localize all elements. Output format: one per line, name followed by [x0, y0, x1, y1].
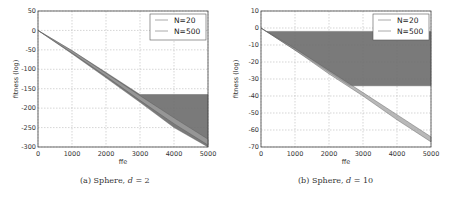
- x-tick-label: 1000: [64, 150, 81, 158]
- y-tick-label: -150: [21, 85, 36, 93]
- y-tick-label: -250: [21, 124, 36, 132]
- caption-b: (b) Sphere, d = 10: [298, 176, 373, 185]
- x-tick-label: 1000: [287, 150, 304, 158]
- y-tick-label: 10: [251, 7, 259, 15]
- y-tick-label: -70: [248, 143, 259, 151]
- y-tick-label: -200: [21, 104, 36, 112]
- y-axis-label: fitness (log): [12, 60, 20, 99]
- y-tick-label: 0: [32, 27, 36, 35]
- y-tick-label: 0: [255, 24, 259, 32]
- x-tick-label: 4000: [389, 150, 406, 158]
- y-tick-label: 50: [28, 7, 36, 15]
- chart-panel-b: 010002000300040005000100-10-20-30-40-50-…: [226, 0, 453, 197]
- y-tick-label: -50: [25, 46, 36, 54]
- x-axis-label: ffe: [342, 158, 350, 166]
- chart-b: 010002000300040005000100-10-20-30-40-50-…: [226, 0, 453, 170]
- legend-entry: N=500: [174, 27, 200, 36]
- y-axis-label: fitness (log): [232, 60, 240, 99]
- y-tick-label: -40: [248, 92, 259, 100]
- x-tick-label: 5000: [423, 150, 440, 158]
- y-tick-label: -300: [21, 143, 36, 151]
- x-tick-label: 3000: [355, 150, 372, 158]
- x-tick-label: 2000: [321, 150, 338, 158]
- x-axis-label: ffe: [119, 158, 127, 166]
- x-tick-label: 2000: [98, 150, 115, 158]
- x-tick-label: 4000: [166, 150, 183, 158]
- legend-entry: N=20: [174, 16, 196, 25]
- y-tick-label: -60: [248, 126, 259, 134]
- y-tick-label: -100: [21, 65, 36, 73]
- chart-panel-a: 010002000300040005000500-50-100-150-200-…: [0, 0, 226, 197]
- chart-a: 010002000300040005000500-50-100-150-200-…: [0, 0, 226, 170]
- y-tick-label: -10: [248, 41, 259, 49]
- caption-a: (a) Sphere, d = 2: [80, 176, 150, 185]
- legend-entry: N=20: [397, 16, 419, 25]
- legend-entry: N=500: [397, 27, 423, 36]
- x-tick-label: 5000: [200, 150, 217, 158]
- x-tick-label: 0: [36, 150, 40, 158]
- x-tick-label: 0: [259, 150, 263, 158]
- x-tick-label: 3000: [132, 150, 149, 158]
- y-tick-label: -20: [248, 58, 259, 66]
- y-tick-label: -50: [248, 109, 259, 117]
- y-tick-label: -30: [248, 75, 259, 83]
